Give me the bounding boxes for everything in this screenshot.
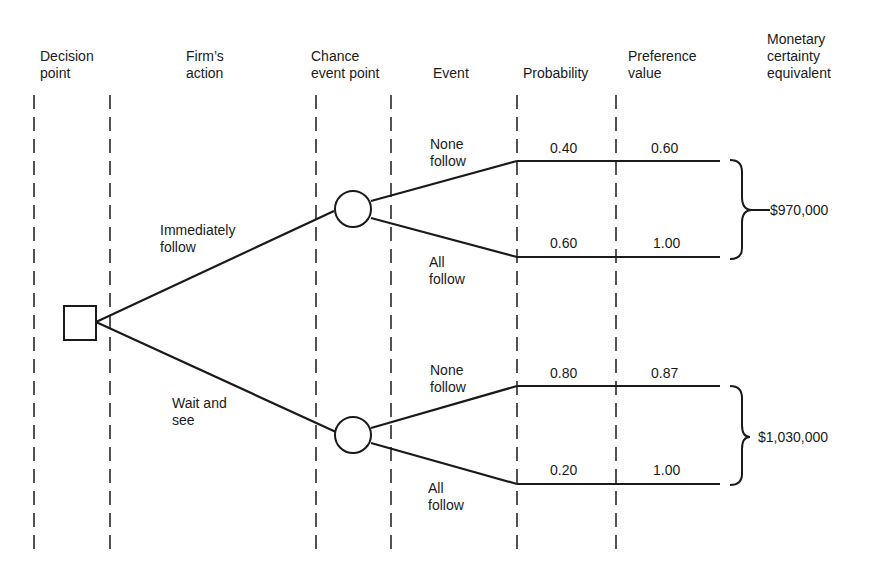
header-monetary-certainty-equivalent: Monetary certainty equivalent	[767, 31, 831, 82]
certainty-equivalent-immediately-follow: $970,000	[770, 202, 828, 219]
event-label: All follow	[428, 480, 464, 514]
event-label: All follow	[429, 254, 465, 288]
chance-node-circle-icon	[335, 417, 371, 453]
preference-value: 0.60	[651, 140, 678, 157]
header-decision-point: Decision point	[40, 48, 94, 82]
preference-value: 1.00	[653, 462, 680, 479]
column-dividers	[34, 95, 616, 550]
probability-value: 0.40	[550, 140, 577, 157]
action-label-wait-and-see: Wait and see	[172, 395, 227, 429]
decision-node-square-icon	[64, 306, 96, 340]
chance-node-circle-icon	[335, 191, 371, 227]
branch-all-follow-1	[371, 218, 517, 257]
certainty-equivalent-wait-and-see: $1,030,000	[758, 429, 828, 446]
header-preference-value: Preference value	[628, 48, 696, 82]
header-firms-action: Firm’s action	[186, 48, 224, 82]
header-chance-event-point: Chance event point	[311, 48, 380, 82]
right-brace-icon	[730, 160, 752, 259]
header-event: Event	[433, 65, 469, 82]
event-label: None follow	[430, 136, 466, 170]
probability-value: 0.20	[550, 462, 577, 479]
action-label-immediately-follow: Immediately follow	[160, 222, 235, 256]
branch-all-follow-2	[371, 443, 517, 484]
right-brace-icon	[730, 386, 750, 485]
probability-value: 0.80	[550, 365, 577, 382]
preference-value: 0.87	[651, 365, 678, 382]
tree-branches	[96, 161, 720, 484]
probability-value: 0.60	[550, 235, 577, 252]
event-label: None follow	[430, 362, 466, 396]
preference-value: 1.00	[653, 235, 680, 252]
header-probability: Probability	[523, 65, 588, 82]
